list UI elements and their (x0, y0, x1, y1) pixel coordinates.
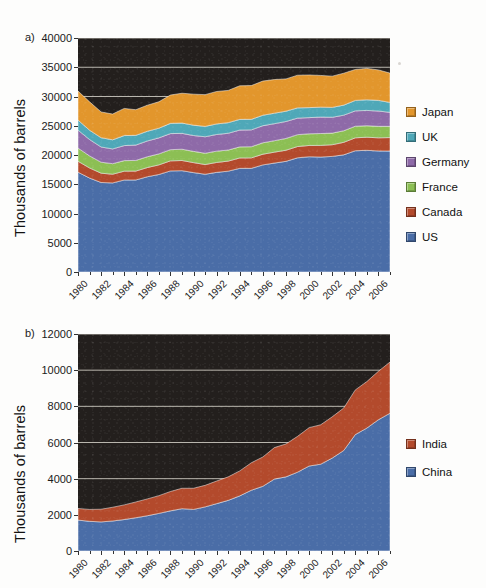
legend-item-uk[interactable]: UK (406, 131, 469, 143)
panel_a-x-minor-tick-mark (136, 272, 137, 275)
panel_b-y-tick-label: 10000 (41, 364, 72, 376)
legend-item-label: UK (422, 131, 438, 143)
legend-swatch-icon (406, 182, 416, 192)
legend-item-france[interactable]: France (406, 181, 469, 193)
panel_a-y-tick-mark (74, 155, 78, 156)
panel_b-x-tick-mark (194, 551, 195, 555)
panel_b-x-tick-mark (147, 551, 148, 555)
panel_b-x-minor-tick-mark (274, 551, 275, 554)
panel_b-x-minor-tick-mark (205, 551, 206, 554)
legend-item-label: China (422, 466, 452, 478)
panel_b-x-tick-label: 1982 (84, 557, 113, 586)
legend-item-japan[interactable]: Japan (406, 106, 469, 118)
panel_b-x-minor-tick-mark (344, 551, 345, 554)
panel_b-x-tick-mark (124, 551, 125, 555)
panel_b-x-tick-label: 2006 (361, 557, 390, 586)
panel_b-y-tick-label: 4000 (48, 473, 72, 485)
panel_b-x-tick-label: 1994 (223, 557, 252, 586)
panel_a-x-tick-label: 1996 (246, 278, 275, 307)
figure-root: a) Thousands of barrels 0500010000150002… (0, 0, 486, 588)
panel_b-y-tick-label: 12000 (41, 328, 72, 340)
panel_b-y-tick-mark (74, 370, 78, 371)
panel_a-x-tick-mark (240, 272, 241, 276)
panel_b-x-tick-mark (378, 551, 379, 555)
panel_a-x-tick-label: 1990 (176, 278, 205, 307)
panel_b-x-tick-mark (332, 551, 333, 555)
panel_b-x-tick-mark (263, 551, 264, 555)
panel_a-y-tick-label: 35000 (41, 61, 72, 73)
panel-a: a) Thousands of barrels 0500010000150002… (0, 22, 486, 317)
legend-item-us[interactable]: US (406, 231, 469, 243)
panel-b-legend: IndiaChina (406, 438, 452, 494)
panel_a-y-tick-label: 0 (66, 266, 72, 278)
panel_a-x-tick-mark (286, 272, 287, 276)
panel_a-x-tick-mark (355, 272, 356, 276)
panel_b-x-tick-label: 2004 (338, 557, 367, 586)
panel_b-x-tick-mark (101, 551, 102, 555)
panel_b-x-tick-label: 1986 (130, 557, 159, 586)
panel_a-x-minor-tick-mark (113, 272, 114, 275)
legend-item-label: France (422, 181, 458, 193)
panel_b-y-tick-mark (74, 406, 78, 407)
panel_a-x-tick-label: 1994 (223, 278, 252, 307)
panel-b-y-ticks: 020004000600080001000012000 (0, 318, 72, 588)
panel_a-y-tick-label: 5000 (48, 237, 72, 249)
panel_a-x-tick-mark (309, 272, 310, 276)
panel_a-y-tick-label: 10000 (41, 208, 72, 220)
panel_a-x-tick-mark (101, 272, 102, 276)
legend-swatch-icon (406, 132, 416, 142)
panel_b-x-tick-mark (240, 551, 241, 555)
panel_b-x-tick-label: 1984 (107, 557, 136, 586)
panel_a-y-tick-mark (74, 126, 78, 127)
panel_a-x-tick-label: 1986 (130, 278, 159, 307)
panel_a-x-tick-label: 2004 (338, 278, 367, 307)
panel_a-x-minor-tick-mark (90, 272, 91, 275)
legend-item-germany[interactable]: Germany (406, 156, 469, 168)
panel-a-legend: JapanUKGermanyFranceCanadaUS (406, 106, 469, 256)
panel_a-x-tick-mark (263, 272, 264, 276)
legend-item-canada[interactable]: Canada (406, 206, 469, 218)
panel_b-y-tick-mark (74, 443, 78, 444)
panel_a-x-minor-tick-mark (228, 272, 229, 275)
panel_a-x-tick-mark (194, 272, 195, 276)
panel_b-x-tick-label: 1990 (176, 557, 205, 586)
legend-item-label: US (422, 231, 438, 243)
legend-swatch-icon (406, 107, 416, 117)
panel_b-x-tick-label: 2000 (292, 557, 321, 586)
panel_b-y-tick-label: 2000 (48, 509, 72, 521)
panel_b-y-tick-label: 0 (66, 545, 72, 557)
panel_b-x-minor-tick-mark (182, 551, 183, 554)
panel_b-x-minor-tick-mark (390, 551, 391, 554)
panel_a-y-tick-label: 15000 (41, 178, 72, 190)
panel_b-y-tick-mark (74, 479, 78, 480)
panel_b-x-tick-mark (309, 551, 310, 555)
panel_a-y-tick-mark (74, 97, 78, 98)
panel_a-y-tick-mark (74, 214, 78, 215)
panel_a-x-tick-mark (170, 272, 171, 276)
legend-item-label: Japan (422, 106, 453, 118)
panel_a-x-minor-tick-mark (321, 272, 322, 275)
panel_a-x-tick-mark (217, 272, 218, 276)
panel_a-x-tick-label: 1984 (107, 278, 136, 307)
panel_a-x-tick-mark (78, 272, 79, 276)
panel_b-x-minor-tick-mark (251, 551, 252, 554)
legend-swatch-icon (406, 207, 416, 217)
panel_b-x-minor-tick-mark (136, 551, 137, 554)
panel_a-y-tick-label: 40000 (41, 32, 72, 44)
panel_a-x-tick-mark (124, 272, 125, 276)
legend-swatch-icon (406, 157, 416, 167)
panel_a-x-tick-label: 1992 (199, 278, 228, 307)
panel_a-x-minor-tick-mark (344, 272, 345, 275)
panel_a-x-minor-tick-mark (298, 272, 299, 275)
panel_a-y-tick-mark (74, 243, 78, 244)
panel_a-x-tick-label: 2000 (292, 278, 321, 307)
panel-b-stacked-area-chart (78, 334, 390, 551)
panel_a-x-tick-mark (147, 272, 148, 276)
panel_a-x-minor-tick-mark (205, 272, 206, 275)
panel_b-x-minor-tick-mark (321, 551, 322, 554)
panel_b-y-tick-label: 8000 (48, 400, 72, 412)
panel_b-x-tick-label: 1992 (199, 557, 228, 586)
legend-item-china[interactable]: China (406, 466, 452, 478)
legend-item-india[interactable]: India (406, 438, 452, 450)
legend-item-label: Germany (422, 156, 469, 168)
